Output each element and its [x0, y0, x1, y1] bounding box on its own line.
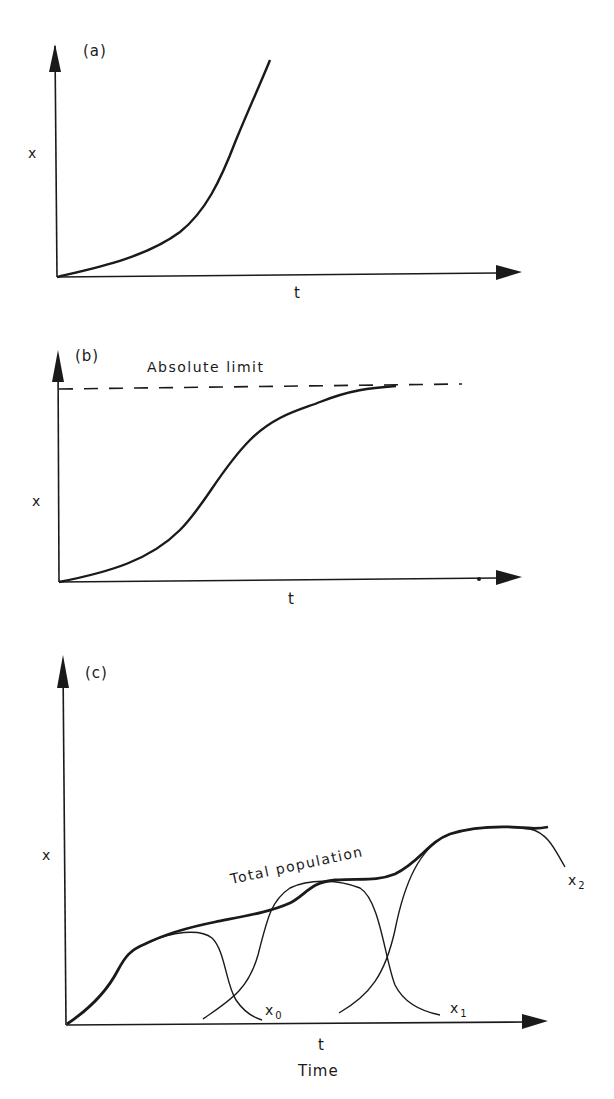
panel-b-y-label: x [32, 494, 40, 508]
panel-c-x-label: t [318, 1038, 324, 1053]
panel-b-axis-dot [477, 577, 481, 581]
panel-c-curve-x2 [339, 827, 565, 1013]
panel-a-exponential-curve [57, 60, 270, 277]
panel-a-y-label: x [28, 146, 36, 160]
panel-a-y-arrow-icon [49, 44, 61, 72]
panel-a-tag: (a) [83, 44, 107, 59]
x2-name: x [568, 872, 576, 888]
panel-c-y-label: x [42, 848, 50, 862]
panel-c [57, 655, 565, 1029]
panel-c-curve-x1 [203, 881, 440, 1019]
panel-c-x2-label: x2 [568, 873, 585, 887]
panel-c-curve-x0 [150, 932, 262, 1020]
panel-c-y-arrow-icon [57, 655, 69, 688]
figure-canvas [0, 0, 614, 1099]
panel-a-x-axis [57, 273, 497, 277]
x1-subscript: 1 [460, 1008, 466, 1019]
panel-c-x1-label: x1 [450, 1001, 467, 1015]
panel-c-x-arrow-icon [522, 1014, 548, 1029]
panel-c-x0-label: x0 [265, 1003, 282, 1017]
x0-name: x [265, 1002, 273, 1018]
panel-c-tag: (c) [85, 666, 108, 681]
panel-a-x-arrow-icon [496, 265, 522, 280]
panel-b-y-axis [58, 356, 59, 582]
panel-b-x-axis [59, 578, 498, 582]
panel-c-y-axis [63, 664, 66, 1025]
panel-b-y-arrow-icon [52, 350, 64, 382]
x2-subscript: 2 [578, 880, 584, 891]
panel-a [49, 44, 522, 280]
x1-name: x [450, 1000, 458, 1016]
panel-b-logistic-curve [59, 386, 396, 582]
panel-b-absolute-limit-line [59, 384, 462, 389]
panel-b-tag: (b) [75, 349, 99, 364]
panel-a-x-label: t [294, 286, 300, 301]
panel-c-time-label: Time [298, 1064, 339, 1079]
panel-b [52, 350, 522, 585]
panel-b-absolute-limit-label: Absolute limit [147, 360, 264, 374]
panel-a-y-axis [55, 46, 57, 277]
panel-c-x-axis [66, 1022, 525, 1025]
panel-b-x-label: t [288, 592, 294, 607]
x0-subscript: 0 [275, 1010, 281, 1021]
panel-b-x-arrow-icon [496, 570, 522, 585]
